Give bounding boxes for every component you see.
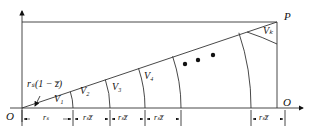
x-end-label: O bbox=[283, 97, 291, 108]
dim-rsz-2: rₛz̅ bbox=[118, 114, 127, 122]
region-v2: V₂ bbox=[80, 86, 90, 96]
dim-rsz-k: rₛz̅ bbox=[259, 114, 268, 122]
diagram: O O P rₛ(1 − z̅) V₁ V₂ V₃ V₄ Vₖ rₛ rₛz̅ … bbox=[0, 0, 315, 138]
region-vk: Vₖ bbox=[263, 26, 273, 36]
p-label: P bbox=[284, 11, 291, 22]
region-v4: V₄ bbox=[144, 71, 154, 81]
origin-label: O bbox=[6, 111, 14, 122]
region-v1: V₁ bbox=[54, 94, 64, 104]
region-v3: V₃ bbox=[112, 82, 122, 92]
dim-rsz-3: rₛz̅ bbox=[154, 114, 163, 122]
inner-radius-label: rₛ(1 − z̅) bbox=[27, 79, 62, 89]
dim-rs: rₛ bbox=[43, 114, 49, 122]
dim-rsz-1: rₛz̅ bbox=[83, 114, 92, 122]
